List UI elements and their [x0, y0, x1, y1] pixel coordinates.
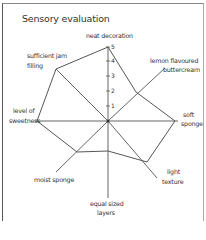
label-equal-2: layers: [97, 209, 115, 217]
axis-lemon-buttercream: [108, 68, 165, 121]
label-jam-2: filling: [27, 62, 43, 70]
axis-moist-sponge: [56, 121, 108, 172]
tick-3: 3: [111, 72, 115, 79]
label-jam-1: sufficient jam: [27, 52, 67, 60]
tick-1: 1: [111, 102, 115, 109]
label-sweet-1: level of: [13, 107, 34, 115]
tick-4: 4: [111, 57, 115, 64]
label-light-2: texture: [162, 178, 183, 186]
label-sweet-2: sweetness: [9, 117, 40, 125]
label-lemon-2: buttercream: [163, 66, 200, 74]
axis-light-texture: [108, 121, 157, 178]
center-point: [107, 120, 110, 123]
label-equal-1: equal sized: [90, 200, 123, 208]
tick-5: 5: [111, 43, 115, 50]
axis-jam-filling: [56, 69, 108, 121]
label-light-1: light: [167, 168, 180, 176]
label-neat-decoration: neat decoration: [86, 32, 133, 40]
tick-2: 2: [111, 87, 115, 94]
label-moist-sponge: moist sponge: [34, 176, 74, 184]
label-soft-2: sponge: [181, 120, 203, 128]
label-soft-1: soft: [183, 111, 194, 119]
label-lemon-1: lemon flavoured: [150, 57, 198, 65]
